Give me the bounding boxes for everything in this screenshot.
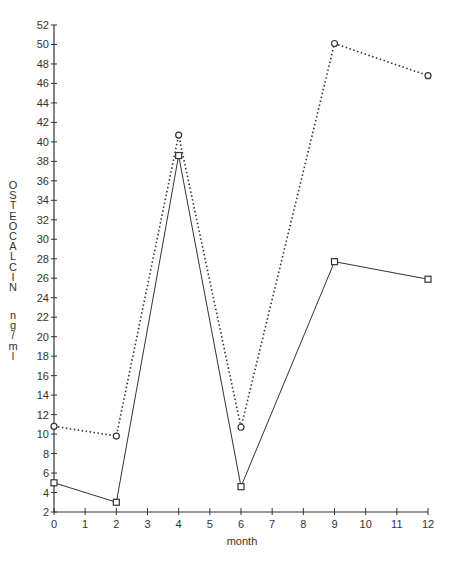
x-tick-label: 8 — [300, 518, 306, 530]
x-tick-label: 11 — [391, 518, 402, 530]
y-axis-title-letter: N — [6, 282, 20, 292]
series-square-solid — [51, 153, 431, 506]
x-tick-label: 0 — [51, 518, 57, 530]
circle-marker — [332, 41, 338, 47]
y-tick-label: 52 — [37, 19, 49, 31]
y-tick-label: 24 — [37, 292, 49, 304]
y-tick-label: 2 — [43, 506, 49, 518]
circle-dotted-line — [54, 44, 428, 437]
square-marker — [51, 480, 57, 486]
axes: 2468101214161820222426283032343638404244… — [37, 19, 434, 530]
x-tick-label: 2 — [113, 518, 119, 530]
square-marker — [332, 259, 338, 265]
x-tick-label: 9 — [331, 518, 337, 530]
y-tick-label: 40 — [37, 136, 49, 148]
y-tick-label: 20 — [37, 331, 49, 343]
x-tick-label: 4 — [176, 518, 182, 530]
x-tick-label: 1 — [82, 518, 88, 530]
y-tick-label: 32 — [37, 214, 49, 226]
y-tick-label: 16 — [37, 370, 49, 382]
y-tick-label: 10 — [37, 428, 49, 440]
circle-marker — [51, 423, 57, 429]
x-tick-label: 7 — [269, 518, 275, 530]
y-tick-label: 8 — [43, 448, 49, 460]
y-tick-label: 36 — [37, 175, 49, 187]
square-marker — [113, 499, 119, 505]
y-tick-label: 18 — [37, 350, 49, 362]
series-circle-dotted — [51, 41, 431, 440]
x-axis-title: month — [227, 535, 258, 547]
y-tick-label: 14 — [37, 389, 49, 401]
square-solid-line — [54, 156, 428, 503]
series-layer — [51, 41, 431, 506]
x-tick-label: 10 — [360, 518, 372, 530]
y-axis-title-main: OSTEOCALCIN — [6, 180, 20, 292]
x-tick-label: 12 — [422, 518, 434, 530]
x-tick-label: 5 — [207, 518, 213, 530]
y-tick-label: 4 — [43, 487, 49, 499]
y-tick-label: 44 — [37, 97, 49, 109]
chart: 2468101214161820222426283032343638404244… — [0, 0, 452, 561]
y-tick-label: 30 — [37, 233, 49, 245]
square-marker — [176, 153, 182, 159]
y-axis-title-unit: ng/ml — [6, 310, 20, 361]
square-marker — [238, 484, 244, 490]
y-tick-label: 50 — [37, 38, 49, 50]
y-tick-label: 12 — [37, 409, 49, 421]
x-tick-label: 3 — [144, 518, 150, 530]
y-tick-label: 6 — [43, 467, 49, 479]
y-tick-label: 46 — [37, 77, 49, 89]
y-axis-title-letter: l — [6, 351, 20, 361]
y-tick-label: 28 — [37, 253, 49, 265]
y-tick-label: 48 — [37, 58, 49, 70]
circle-marker — [238, 424, 244, 430]
y-tick-label: 26 — [37, 272, 49, 284]
y-tick-label: 34 — [37, 194, 49, 206]
circle-marker — [113, 433, 119, 439]
circle-marker — [425, 73, 431, 79]
x-tick-label: 6 — [238, 518, 244, 530]
y-tick-label: 38 — [37, 155, 49, 167]
square-marker — [425, 276, 431, 282]
y-tick-label: 22 — [37, 311, 49, 323]
circle-marker — [176, 132, 182, 138]
y-tick-label: 42 — [37, 116, 49, 128]
